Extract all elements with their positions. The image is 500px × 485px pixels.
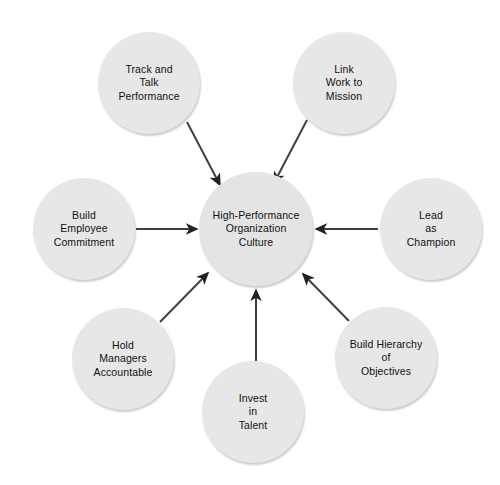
node-label: High-PerformanceOrganizationCulture [207, 209, 306, 250]
node-label: Track andTalkPerformance [112, 63, 185, 104]
node-label: LeadasChampion [401, 209, 462, 250]
node-label-line: Employee [54, 222, 115, 236]
node-label-line: Build [54, 209, 115, 223]
node-invest-in-talent[interactable]: InvestinTalent [202, 361, 304, 463]
node-label: InvestinTalent [233, 392, 274, 433]
node-label-line: Mission [326, 90, 363, 104]
node-link-work-to-mission[interactable]: LinkWork toMission [293, 32, 395, 134]
node-label-line: Hold [94, 339, 153, 353]
node-label: Build HierarchyofObjectives [344, 338, 429, 379]
node-hold-managers-accountable[interactable]: HoldManagersAccountable [72, 308, 174, 410]
node-build-hierarchy-of-objectives[interactable]: Build HierarchyofObjectives [335, 307, 437, 409]
node-label-line: Managers [94, 352, 153, 366]
node-label-line: Link [326, 63, 363, 77]
node-build-employee-commitment[interactable]: BuildEmployeeCommitment [33, 178, 135, 280]
node-label-line: as [407, 222, 456, 236]
node-track-and-talk-performance[interactable]: Track andTalkPerformance [98, 32, 200, 134]
node-label-line: Track and [118, 63, 179, 77]
diagram-canvas: High-PerformanceOrganizationCulture Trac… [0, 0, 500, 485]
node-label: LinkWork toMission [320, 63, 369, 104]
node-label-line: Champion [407, 236, 456, 250]
node-label-line: Talk [118, 76, 179, 90]
arrow-hold-managers-accountable [160, 273, 208, 322]
arrow-build-hierarchy-of-objectives [303, 274, 349, 321]
node-label-line: in [239, 405, 268, 419]
node-label: HoldManagersAccountable [88, 339, 159, 380]
node-label-line: Objectives [350, 365, 423, 379]
node-label-line: Invest [239, 392, 268, 406]
node-label-line: High-Performance [213, 209, 300, 223]
node-high-performance-organization-culture[interactable]: High-PerformanceOrganizationCulture [199, 172, 313, 286]
node-label-line: Work to [326, 76, 363, 90]
node-label-line: Culture [213, 236, 300, 250]
node-label: BuildEmployeeCommitment [48, 209, 121, 250]
node-label-line: of [350, 351, 423, 365]
arrow-track-and-talk-performance [187, 122, 220, 185]
arrow-link-work-to-mission [274, 120, 307, 183]
node-label-line: Lead [407, 209, 456, 223]
node-label-line: Commitment [54, 236, 115, 250]
node-label-line: Talent [239, 419, 268, 433]
node-label-line: Organization [213, 222, 300, 236]
node-lead-as-champion[interactable]: LeadasChampion [380, 178, 482, 280]
node-label-line: Build Hierarchy [350, 338, 423, 352]
node-label-line: Performance [118, 90, 179, 104]
node-label-line: Accountable [94, 366, 153, 380]
